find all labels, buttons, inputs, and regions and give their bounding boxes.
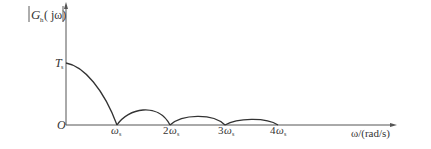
x-axis-label: ω/(rad/s)	[351, 127, 390, 140]
svg-text:2: 2	[163, 124, 169, 136]
ts-label: T s	[55, 56, 64, 70]
tick-ws: ω s	[111, 124, 122, 137]
svg-text:ω: ω	[169, 124, 177, 136]
origin-label: O	[57, 118, 66, 132]
side-lobe-1	[117, 110, 170, 125]
svg-text:s: s	[119, 131, 122, 137]
hold-magnitude-diagram: G h ( jω) T s O ω s 2 ω s 3 ω s 4 ω s ω/…	[0, 0, 431, 149]
side-lobe-2	[170, 116, 225, 125]
svg-text:ω: ω	[276, 124, 284, 136]
main-lobe-curve	[66, 63, 117, 125]
svg-text:s: s	[61, 64, 64, 70]
svg-text:ω: ω	[111, 124, 119, 136]
tick-3ws: 3 ω s	[218, 124, 235, 137]
svg-text:ω: ω	[224, 124, 232, 136]
svg-text:s: s	[284, 131, 287, 137]
tick-2ws: 2 ω s	[163, 124, 180, 137]
y-axis-label: G h ( jω)	[29, 6, 66, 24]
svg-text:s: s	[177, 131, 180, 137]
x-axis-arrow-icon	[390, 123, 397, 127]
tick-4ws: 4 ω s	[270, 124, 287, 137]
svg-text:s: s	[232, 131, 235, 137]
